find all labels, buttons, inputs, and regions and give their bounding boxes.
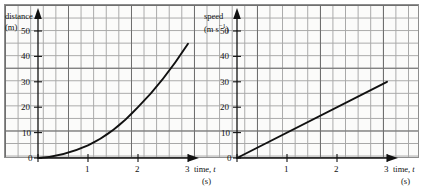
speed-time-graph: speed (m s−1) 50 40 30 20 10 0 1 2 3 tim… bbox=[199, 0, 423, 192]
y-axis-unit-distance-text: (m) bbox=[5, 22, 17, 32]
y-tick-label-10-right: 10 bbox=[221, 128, 230, 138]
x-tick-label-3-left: 3 bbox=[185, 164, 190, 174]
speed-line bbox=[237, 82, 387, 158]
x-tick-label-3-right: 3 bbox=[384, 164, 389, 174]
x-tick-label-1-left: 1 bbox=[85, 164, 90, 174]
y-axis-title-speed-text: speed bbox=[204, 11, 223, 21]
y-tick-label-40-right: 40 bbox=[220, 51, 229, 61]
distance-time-graph: distance (m) 50 40 30 20 10 0 1 2 3 time… bbox=[0, 0, 205, 192]
y-tick-label-20-right: 20 bbox=[220, 102, 229, 112]
x-axis-symbol-right: t bbox=[412, 164, 414, 174]
y-axis-title-distance-text: distance bbox=[5, 11, 33, 21]
y-tick-label-50-right: 50 bbox=[220, 26, 229, 36]
y-tick-label-0-right: 0 bbox=[227, 153, 232, 163]
distance-curve bbox=[38, 44, 188, 158]
x-axis-title-right-text: time, bbox=[393, 164, 410, 174]
y-tick-label-40-left: 40 bbox=[21, 51, 30, 61]
y-tick-label-0-left: 0 bbox=[28, 153, 33, 163]
y-tick-label-30-left: 30 bbox=[21, 77, 30, 87]
y-axis-title-speed: speed bbox=[204, 11, 223, 21]
figure-container: distance (m) 50 40 30 20 10 0 1 2 3 time… bbox=[0, 0, 423, 192]
y-tick-label-50-left: 50 bbox=[21, 26, 30, 36]
y-axis-title-distance: distance bbox=[5, 11, 33, 21]
y-tick-label-20-left: 20 bbox=[21, 102, 30, 112]
y-axis-unit-distance: (m) bbox=[5, 22, 17, 32]
x-tick-label-2-left: 2 bbox=[135, 164, 140, 174]
distance-time-plot bbox=[0, 0, 205, 192]
x-tick-label-2-right: 2 bbox=[334, 164, 339, 174]
x-axis-time-left bbox=[38, 154, 199, 162]
x-axis-title-right: time, t bbox=[393, 164, 415, 174]
y-tick-label-10-left: 10 bbox=[22, 128, 31, 138]
speed-time-plot bbox=[199, 0, 423, 192]
x-axis-unit-right: (s) bbox=[401, 176, 410, 186]
x-axis-time-right bbox=[237, 154, 398, 162]
x-tick-label-1-right: 1 bbox=[284, 164, 289, 174]
y-tick-label-30-right: 30 bbox=[220, 77, 229, 87]
y-axis-unit-speed-pre: (m s bbox=[204, 24, 219, 34]
